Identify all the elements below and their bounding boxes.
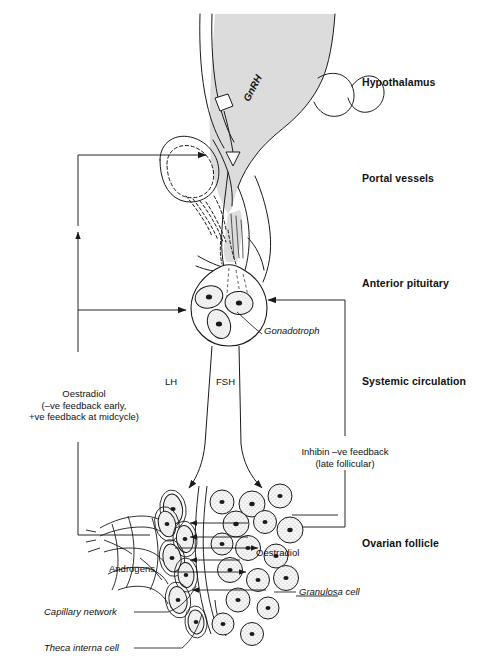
anterior-pituitary-gland — [191, 265, 267, 346]
granulosa-cell — [254, 511, 277, 534]
heading-anterior-pituitary: Anterior pituitary — [362, 277, 449, 289]
diagram-artwork — [0, 0, 478, 670]
oestradiol-label: Oestradiol — [256, 547, 299, 559]
theca-interna-cell-label: Theca interna cell — [44, 642, 119, 653]
oestradiol-feedback-line1: Oestradiol — [14, 388, 154, 400]
oestradiol-feedback-line3: +ve feedback at midcycle) — [14, 411, 154, 423]
heading-systemic-circulation: Systemic circulation — [362, 375, 466, 387]
granulosa-cell — [211, 533, 233, 555]
inhibin-feedback-annotation: Inhibin –ve feedback (late follicular) — [283, 446, 407, 469]
gonadotroph-label: Gonadotroph — [264, 325, 319, 336]
theca-interna-cell — [183, 605, 208, 639]
granulosa-cell — [212, 613, 234, 635]
granulosa-cell — [257, 597, 279, 619]
oestradiol-feedback-line2: (–ve feedback early, — [14, 400, 154, 412]
granulosa-cell — [277, 517, 303, 543]
androgens-label: Androgens — [109, 563, 155, 575]
inhibin-feedback-line1: Inhibin –ve feedback — [283, 446, 407, 458]
lh-fsh-tracts — [189, 346, 262, 488]
oestradiol-feedback-loop — [78, 155, 206, 535]
oestradiol-feedback-annotation: Oestradiol (–ve feedback early, +ve feed… — [14, 388, 154, 423]
heading-hypothalamus: Hypothalamus — [362, 76, 436, 88]
granulosa-cell — [210, 490, 234, 514]
granulosa-cell — [268, 484, 292, 508]
fsh-label: FSH — [216, 376, 235, 388]
capillary-network-icon — [86, 516, 170, 604]
capillary-network-label: Capillary network — [44, 606, 117, 617]
inhibin-feedback-line2: (late follicular) — [283, 458, 407, 470]
lh-label: LH — [165, 376, 177, 388]
granulosa-cell — [247, 569, 270, 592]
granulosa-cell-label: Granulosa cell — [299, 586, 360, 597]
granulosa-cell — [218, 558, 243, 583]
granulosa-cell — [274, 566, 299, 591]
heading-ovarian-follicle: Ovarian follicle — [362, 537, 439, 549]
figure-canvas: Hypothalamus Portal vessels Anterior pit… — [0, 0, 478, 670]
granulosa-cell — [223, 511, 249, 537]
heading-portal-vessels: Portal vessels — [362, 172, 434, 184]
granulosa-cell — [241, 623, 264, 646]
granulosa-cell — [226, 588, 250, 612]
